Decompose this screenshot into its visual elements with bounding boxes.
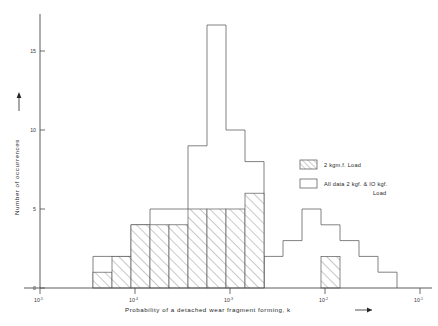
x-tick-label: 10-2	[319, 297, 328, 303]
bar-open	[226, 25, 245, 130]
legend: 2 kgm.f. Load All data 2 kgf. & IO kgf. …	[300, 160, 388, 196]
bar-open	[150, 209, 169, 225]
y-tick-label: 0	[33, 285, 36, 291]
figure-root: 0 5 10 15 10-5 10-4 10-3 10-2 10-1 Proba…	[0, 0, 438, 326]
plot-area: 0 5 10 15 10-5 10-4 10-3 10-2 10-1 Proba…	[13, 14, 432, 313]
bar-open	[283, 241, 302, 257]
x-ticks	[40, 288, 420, 294]
bar-hatched	[131, 225, 150, 288]
y-axis-title: Number of occurrences	[13, 139, 20, 215]
bar-open	[321, 209, 340, 225]
series-2kgf-bars	[93, 193, 340, 288]
legend-label: All data 2 kgf. & IO kgf.	[324, 181, 388, 187]
bar-hatched	[245, 193, 264, 288]
x-tick-label: 10-1	[414, 297, 423, 303]
y-tick-label: 5	[33, 206, 36, 212]
bar-hatched	[207, 209, 226, 288]
y-tick-labels: 0 5 10 15	[30, 48, 36, 291]
y-axis-arrow	[17, 92, 22, 111]
bar-hatched	[226, 209, 245, 288]
x-tick-labels: 10-5 10-4 10-3 10-2 10-1	[34, 297, 423, 303]
bar-open	[245, 130, 264, 162]
legend-swatch-open	[300, 179, 317, 188]
histogram-figure: 0 5 10 15 10-5 10-4 10-3 10-2 10-1 Proba…	[0, 0, 438, 326]
bar-hatched	[321, 256, 340, 288]
x-axis-arrow	[355, 308, 372, 313]
x-tick-label: 10-3	[224, 297, 233, 303]
bar-hatched	[93, 272, 112, 288]
bar-hatched	[169, 225, 188, 288]
bar-open	[207, 25, 226, 146]
x-tick-label: 10-5	[34, 297, 43, 303]
legend-swatch-hatched	[300, 160, 317, 169]
bar-hatched	[188, 209, 207, 288]
y-ticks	[40, 51, 45, 288]
bar-hatched	[112, 256, 131, 288]
bar-open	[378, 256, 397, 288]
bar-open	[340, 225, 359, 241]
bar-hatched	[150, 225, 169, 288]
legend-label-line2: Load	[373, 190, 386, 196]
legend-entry-all-data: All data 2 kgf. & IO kgf. Load	[300, 179, 388, 196]
bar-open	[302, 209, 321, 241]
bar-open	[359, 241, 378, 257]
y-tick-label: 15	[30, 48, 36, 54]
legend-entry-2kgf: 2 kgm.f. Load	[300, 160, 361, 169]
legend-label: 2 kgm.f. Load	[324, 162, 361, 168]
x-tick-label: 10-4	[129, 297, 138, 303]
x-axis-title: Probability of a detached wear fragment …	[125, 306, 291, 313]
y-tick-label: 10	[30, 127, 36, 133]
bar-open	[188, 146, 207, 209]
